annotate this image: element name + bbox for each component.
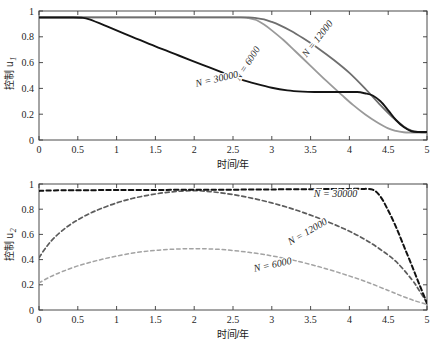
x-axis-label: 时间/年	[217, 158, 250, 170]
x-tick-label: 2.5	[227, 144, 240, 155]
y-tick-label: 0.2	[22, 279, 35, 290]
x-tick-label: 3.5	[304, 314, 317, 325]
x-tick-label: 1.5	[149, 314, 162, 325]
chart-panel-u2: 00.511.522.533.544.5500.20.40.60.81时间/年控…	[0, 175, 445, 347]
series-line	[39, 249, 427, 305]
y-tick-label: 0.6	[22, 229, 35, 240]
y-tick-label: 1	[29, 179, 34, 190]
x-tick-label: 2.5	[227, 314, 240, 325]
series-annotation-label: N = 6000	[252, 255, 293, 274]
chart-svg-u2: 00.511.522.533.544.5500.20.40.60.81时间/年控…	[0, 175, 445, 347]
series-annotation-label: N = 30000	[313, 188, 357, 199]
series-annotation: N = 12000N = 12000	[285, 216, 329, 248]
x-tick-label: 0.5	[72, 314, 85, 325]
y-tick-label: 0.8	[22, 204, 35, 215]
series-annotation-label: N = 30000	[193, 68, 239, 89]
y-axis-label: 控制 u	[3, 233, 15, 261]
x-tick-label: 3.5	[304, 144, 317, 155]
y-tick-label: 0.6	[22, 57, 35, 68]
series-annotation: N = 30000N = 30000	[313, 188, 357, 199]
x-tick-label: 1	[114, 144, 119, 155]
y-axis-label: 控制 u	[3, 61, 15, 89]
y-tick-label: 0.4	[22, 83, 35, 94]
series-annotation: N = 30000N = 30000	[193, 68, 239, 89]
x-tick-label: 0	[37, 144, 42, 155]
y-axis-label-group: 控制 u2	[3, 228, 18, 261]
y-axis-label-subscript: 1	[9, 57, 18, 61]
series-line	[39, 191, 427, 304]
y-tick-label: 0	[29, 135, 34, 146]
x-tick-label: 2	[192, 144, 197, 155]
chart-panel-u1: 00.511.522.533.544.5500.20.40.60.81时间/年控…	[0, 0, 445, 175]
x-tick-label: 3	[269, 144, 274, 155]
x-tick-label: 0	[37, 314, 42, 325]
y-tick-label: 0.4	[22, 254, 35, 265]
series-annotation-label: N = 12000	[285, 216, 329, 248]
x-tick-label: 0.5	[72, 144, 85, 155]
y-axis-label-subscript: 2	[9, 228, 18, 232]
y-tick-label: 0.8	[22, 31, 35, 42]
series-line	[39, 189, 427, 303]
x-tick-label: 1	[114, 314, 119, 325]
x-tick-label: 4	[347, 144, 352, 155]
series-annotation: N = 6000N = 6000	[252, 255, 293, 274]
plot-frame	[39, 184, 427, 310]
y-tick-label: 0.2	[22, 109, 35, 120]
chart-svg-u1: 00.511.522.533.544.5500.20.40.60.81时间/年控…	[0, 0, 445, 175]
x-tick-label: 5	[425, 314, 430, 325]
x-tick-label: 4	[347, 314, 352, 325]
x-tick-label: 3	[269, 314, 274, 325]
y-axis-label-group: 控制 u1	[3, 57, 18, 90]
x-tick-label: 2	[192, 314, 197, 325]
y-tick-label: 0	[29, 305, 34, 316]
x-tick-label: 4.5	[382, 314, 395, 325]
figure-container: 00.511.522.533.544.5500.20.40.60.81时间/年控…	[0, 0, 445, 347]
x-axis-label: 时间/年	[217, 328, 250, 340]
x-tick-label: 5	[425, 144, 430, 155]
y-tick-label: 1	[29, 6, 34, 17]
series-group	[39, 189, 427, 304]
x-tick-label: 4.5	[382, 144, 395, 155]
x-tick-label: 1.5	[149, 144, 162, 155]
